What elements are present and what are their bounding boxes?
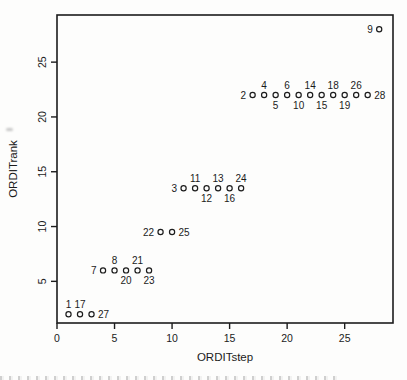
data-point (215, 186, 220, 191)
data-point (192, 186, 197, 191)
data-point-label: 24 (236, 173, 248, 184)
data-point-label: 8 (112, 255, 118, 266)
data-point-label: 11 (190, 173, 201, 184)
data-point-label: 4 (261, 80, 267, 91)
scatter-plot: 0510152025510152025ORDITstepORDITrank117… (0, 0, 407, 380)
data-point-label: 20 (120, 275, 132, 286)
data-point-label: 14 (305, 80, 317, 91)
data-point-label: 1 (66, 299, 72, 310)
data-point-label: 16 (224, 193, 236, 204)
data-point (296, 92, 301, 97)
data-point-label: 13 (213, 173, 225, 184)
data-point (135, 268, 140, 273)
data-point-label: 21 (132, 255, 144, 266)
data-point (365, 92, 370, 97)
data-point (342, 92, 347, 97)
data-point (204, 186, 209, 191)
x-tick-label: 25 (339, 332, 351, 344)
data-point-label: 25 (179, 227, 191, 238)
data-point (158, 229, 163, 234)
cutoff-caption-artifact (0, 376, 340, 380)
data-point (89, 312, 94, 317)
data-point (354, 92, 359, 97)
data-point (262, 92, 267, 97)
data-point (308, 92, 313, 97)
data-point-label: 12 (201, 193, 213, 204)
y-axis-title: ORDITrank (7, 140, 19, 198)
data-point (181, 186, 186, 191)
data-point (112, 268, 117, 273)
scatter-figure: 0510152025510152025ORDITstepORDITrank117… (0, 0, 407, 380)
data-point-label: 5 (273, 100, 279, 111)
x-tick-label: 20 (281, 332, 293, 344)
data-point-label: 23 (143, 275, 155, 286)
data-point-label: 7 (91, 265, 97, 276)
data-point-label: 9 (367, 24, 373, 35)
data-point-label: 15 (316, 100, 328, 111)
data-point-label: 6 (284, 80, 290, 91)
data-point (319, 92, 324, 97)
y-tick-label: 25 (36, 56, 48, 68)
data-point (331, 92, 336, 97)
y-tick-label: 5 (36, 278, 48, 284)
data-point (169, 229, 174, 234)
x-tick-label: 0 (54, 332, 60, 344)
data-point (250, 92, 255, 97)
data-point-label: 17 (74, 299, 86, 310)
data-point (100, 268, 105, 273)
data-point (66, 312, 71, 317)
data-point-label: 3 (172, 183, 178, 194)
data-point-label: 22 (143, 227, 155, 238)
x-axis-title: ORDITstep (197, 351, 253, 363)
data-point-label: 19 (339, 100, 351, 111)
data-point (146, 268, 151, 273)
data-point-label: 2 (241, 90, 247, 101)
data-point-label: 26 (351, 80, 363, 91)
data-point (285, 92, 290, 97)
x-tick-label: 5 (112, 332, 118, 344)
y-tick-label: 20 (36, 111, 48, 123)
y-tick-label: 10 (36, 221, 48, 233)
data-point-label: 27 (98, 309, 110, 320)
data-point (227, 186, 232, 191)
data-point (377, 27, 382, 32)
data-point (77, 312, 82, 317)
plot-border (57, 15, 393, 323)
x-tick-label: 15 (224, 332, 236, 344)
data-point (239, 186, 244, 191)
y-tick-label: 15 (36, 166, 48, 178)
data-point (273, 92, 278, 97)
data-point-label: 10 (293, 100, 305, 111)
data-point (123, 268, 128, 273)
data-point-label: 18 (328, 80, 340, 91)
scan-artifact (6, 128, 13, 131)
x-tick-label: 10 (166, 332, 178, 344)
data-point-label: 28 (374, 90, 386, 101)
